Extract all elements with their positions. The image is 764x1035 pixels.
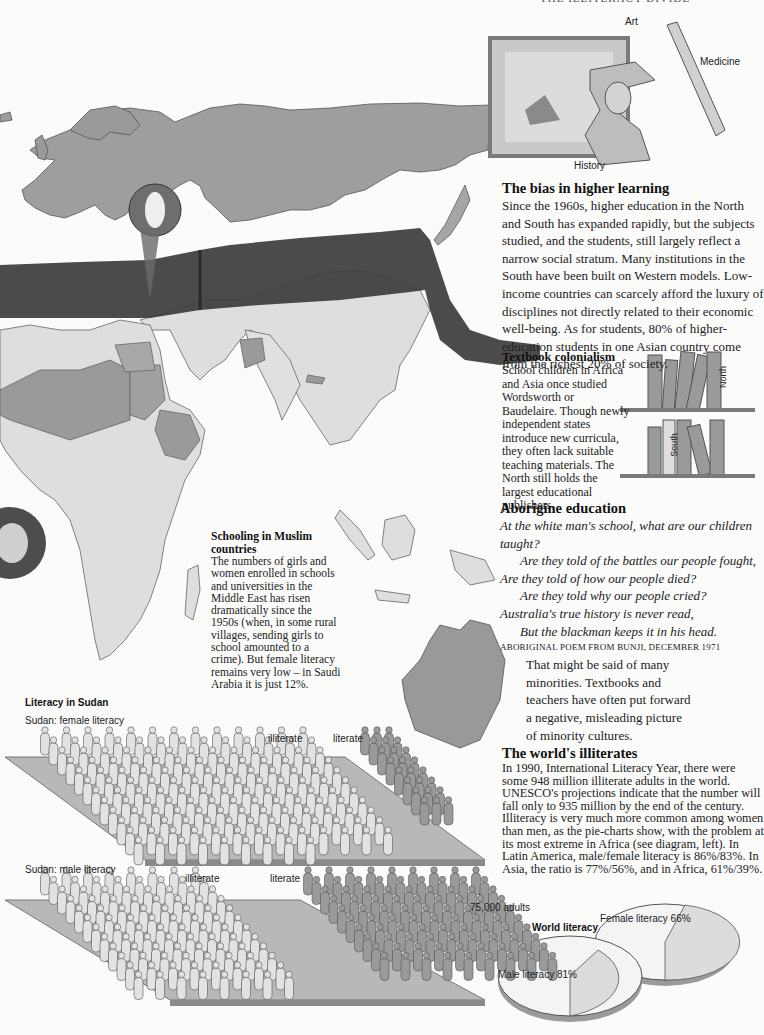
art-label: Art [625,16,638,27]
person-figure-icon [109,943,118,971]
person-figure-icon [319,827,328,855]
person-figure-icon [312,876,321,904]
section-worlds-illiterates: The world's illiterates In 1990, Interna… [502,745,764,875]
person-figure-icon [306,837,315,865]
poem-line: Australia's true history is never read, [500,605,764,623]
aborigine-body: That might be said of many minorities. T… [526,656,696,744]
shelf-south-label: South [669,433,679,457]
person-figure-icon [378,747,387,775]
person-figure-icon [242,837,251,865]
person-figure-icon [49,737,58,765]
person-figure-icon [263,971,272,999]
history-label: History [574,160,605,171]
person-figure-icon [420,797,429,825]
person-figure-icon [395,767,404,795]
person-figure-icon [41,727,50,755]
poem: At the white man's school, what are our … [500,517,764,640]
shelf-north-label: North [718,366,728,388]
person-figure-icon [75,767,84,795]
poem-line: Are they told of how our people died? [500,570,764,588]
person-figure-icon [58,886,67,914]
person-figure-icon [375,817,384,845]
person-figure-icon [384,827,393,855]
person-figure-icon [100,797,109,825]
person-figure-icon [412,787,421,815]
person-figure-icon [276,962,285,990]
person-figure-icon [540,943,549,971]
person-figure-icon [263,837,272,865]
poem-line: At the white man's school, what are our … [500,517,764,552]
person-figure-icon [242,971,251,999]
world-literacy-title: World literacy [532,922,598,933]
male-literate-label: literate [270,873,300,884]
person-figure-icon [117,817,126,845]
female-literacy-label: Female literacy 66% [600,913,691,924]
sudan-title: Literacy in Sudan [25,697,108,708]
person-figure-icon [100,933,109,961]
person-figure-icon [66,895,75,923]
higher-learning-body: Since the 1960s, higher education in the… [502,197,764,373]
person-figure-icon [147,827,156,855]
person-figure-icon [444,797,453,825]
person-figure-icon [83,777,92,805]
person-figure-icon [393,943,402,971]
person-figure-icon [443,952,452,980]
poem-line: Are they told of the battles our people … [500,552,764,570]
person-figure-icon [233,962,242,990]
person-figure-icon [372,943,381,971]
person-figure-icon [456,943,465,971]
person-figure-icon [363,933,372,961]
muslim-schooling-title: Schooling in Muslim countries [211,530,341,555]
female-illiterate-label: illiterate [268,733,302,744]
person-figure-icon [190,827,199,855]
illiterates-title: The world's illiterates [502,745,764,762]
section-textbook-colonialism: Textbook colonialism School children in … [502,350,630,513]
person-figure-icon [304,867,313,895]
person-figure-icon [276,827,285,855]
person-figure-icon [386,757,395,785]
person-figure-icon [435,943,444,971]
sudan-male-label: Sudan: male literacy [25,864,116,875]
person-figure-icon [169,827,178,855]
person-figure-icon [403,777,412,805]
person-figure-icon [92,924,101,952]
person-figure-icon [75,905,84,933]
person-figure-icon [477,943,486,971]
person-figure-icon [369,737,378,765]
person-figure-icon [117,952,126,980]
poem-attribution: ABORIGINAL POEM FROM BUNJI, DECEMBER 197… [500,642,764,652]
section-muslim-schooling: Schooling in Muslim countries The number… [211,530,341,690]
person-figure-icon [255,962,264,990]
person-figure-icon [354,817,363,845]
female-literate-label: literate [333,733,363,744]
poem-line: Are they told why our people cried? [500,587,764,605]
person-figure-icon [49,876,58,904]
person-figure-icon [134,837,143,865]
textbook-body: School children in Africa and Asia once … [502,364,630,513]
person-figure-icon [498,943,507,971]
person-figure-icon [362,827,371,855]
muslim-schooling-body: The numbers of girls and women enrolled … [211,555,341,690]
person-figure-icon [233,827,242,855]
person-figure-icon [355,924,364,952]
person-figure-icon [147,962,156,990]
person-figure-icon [285,837,294,865]
person-figure-icon [255,827,264,855]
person-figure-icon [321,886,330,914]
person-figure-icon [220,837,229,865]
male-literacy-label: Male literacy 81% [498,969,577,980]
section-aborigine-education: Aborigine education At the white man's s… [500,500,764,744]
person-figure-icon [66,757,75,785]
person-figure-icon [422,952,431,980]
illiterates-body: In 1990, International Literacy Year, th… [502,762,764,875]
person-figure-icon [199,837,208,865]
person-figure-icon [464,952,473,980]
person-figure-icon [177,837,186,865]
person-figure-icon [199,971,208,999]
person-figure-icon [92,787,101,815]
person-figure-icon [190,962,199,990]
person-figure-icon [401,952,410,980]
male-illiterate-label: illiterate [185,873,219,884]
person-figure-icon [414,943,423,971]
person-figure-icon [380,952,389,980]
